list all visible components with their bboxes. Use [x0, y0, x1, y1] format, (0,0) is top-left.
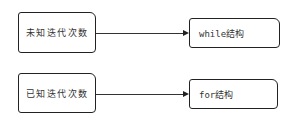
condition-label: 已知迭代次数 — [26, 87, 89, 100]
structure-label: while结构 — [199, 27, 244, 40]
condition-label: 未知迭代次数 — [26, 26, 89, 39]
structure-box-while: while结构 — [189, 18, 280, 48]
condition-box-unknown: 未知迭代次数 — [18, 12, 96, 53]
condition-box-known: 已知迭代次数 — [18, 73, 96, 113]
arrow-line — [96, 94, 184, 95]
structure-box-for: for结构 — [189, 79, 278, 109]
structure-label: for结构 — [199, 88, 233, 101]
arrow-line — [96, 33, 184, 34]
